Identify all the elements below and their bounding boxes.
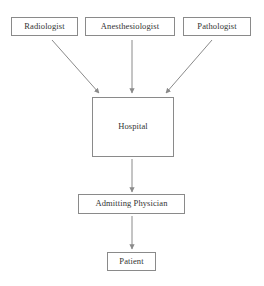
node-hospital-label: Hospital xyxy=(118,122,148,131)
node-pathologist[interactable]: Pathologist xyxy=(183,17,251,36)
flow-diagram: Radiologist Anesthesiologist Pathologist… xyxy=(0,0,264,286)
node-hospital[interactable]: Hospital xyxy=(92,97,174,157)
node-admitting-physician-label: Admitting Physician xyxy=(95,199,167,208)
node-anesthesiologist[interactable]: Anesthesiologist xyxy=(85,17,175,36)
edge-radiologist-to-hospital xyxy=(52,40,99,93)
node-radiologist[interactable]: Radiologist xyxy=(11,17,78,36)
node-radiologist-label: Radiologist xyxy=(24,22,64,31)
node-patient[interactable]: Patient xyxy=(107,252,156,271)
node-anesthesiologist-label: Anesthesiologist xyxy=(101,22,159,31)
node-pathologist-label: Pathologist xyxy=(197,22,236,31)
node-patient-label: Patient xyxy=(119,257,143,266)
edge-pathologist-to-hospital xyxy=(166,40,212,93)
node-admitting-physician[interactable]: Admitting Physician xyxy=(78,194,185,214)
